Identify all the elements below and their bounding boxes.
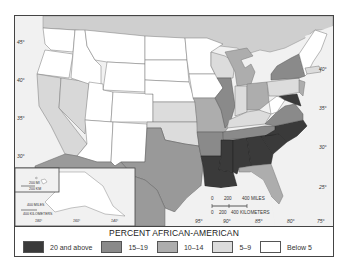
legend-item-below-5: Below 5 (260, 241, 312, 253)
scale-miles-400: 400 MILES (242, 196, 265, 201)
state-indiana (235, 86, 247, 116)
scale-miles-200: 200 (224, 196, 232, 201)
legend-item-20-and-above: 20 and above (23, 241, 92, 253)
latitude-tick: 45° (17, 39, 25, 45)
legend-swatch (212, 241, 233, 253)
map-svg (15, 16, 333, 226)
state-oregon (37, 50, 73, 78)
legend-swatch (157, 241, 178, 253)
state-colorado (111, 92, 153, 122)
legend-label: 5–9 (239, 244, 251, 251)
state-ohio (247, 82, 269, 110)
state-kansas (153, 102, 197, 122)
state-washington (43, 28, 75, 52)
us-choropleth-map: 45° 40° 35° 30° 40° 35° 30° 25° 95° 90° … (15, 16, 333, 227)
scale-km-400: 400 KILOMETERS (231, 210, 270, 215)
longitude-tick: 75° (317, 218, 325, 224)
legend-swatch (260, 241, 281, 253)
alaska-longitude-tick: 180° (35, 219, 42, 223)
alaska-scale-km: 400 KILOMETERS (23, 212, 52, 216)
hawaii-scale-km: 200 KM (29, 187, 41, 191)
latitude-tick: 30° (17, 153, 25, 159)
legend-label: 10–14 (184, 244, 203, 251)
alaska-longitude-tick: 140° (111, 219, 118, 223)
legend-label: 15–19 (128, 244, 147, 251)
map-figure: 45° 40° 35° 30° 40° 35° 30° 25° 95° 90° … (14, 15, 334, 257)
legend-item-10-14: 10–14 (157, 241, 203, 253)
hawaii-scale-miles: 200 MI (29, 181, 40, 185)
scale-miles-0: 0 (211, 196, 214, 201)
state-pennsylvania (267, 78, 301, 96)
state-new-mexico (111, 122, 147, 166)
state-south-dakota (145, 60, 189, 82)
latitude-tick: 40° (319, 66, 327, 72)
legend-items: 20 and above 15–19 10–14 5–9 Below 5 (23, 241, 321, 253)
latitude-tick: 35° (319, 105, 327, 111)
legend-label: 20 and above (50, 244, 92, 251)
scale-km-0: 0 (211, 210, 214, 215)
latitude-tick: 25° (319, 184, 327, 190)
state-wyoming (103, 62, 145, 92)
alaska-scale-miles: 400 MILES (27, 203, 44, 207)
state-north-dakota (145, 36, 187, 60)
state-kentucky (227, 110, 271, 128)
legend-swatch (23, 241, 44, 253)
legend-label: Below 5 (287, 244, 312, 251)
map-legend: PERCENT AFRICAN-AMERICAN 20 and above 15… (15, 227, 333, 256)
latitude-tick: 40° (17, 77, 25, 83)
longitude-tick: 95° (195, 218, 203, 224)
state-mississippi (219, 140, 233, 172)
alaska-longitude-tick: 160° (73, 219, 80, 223)
longitude-tick: 90° (223, 218, 231, 224)
legend-title: PERCENT AFRICAN-AMERICAN (15, 228, 333, 238)
latitude-tick: 30° (319, 144, 327, 150)
state-arkansas (197, 132, 223, 156)
scale-km-200: 200 (219, 210, 227, 215)
legend-item-5-9: 5–9 (212, 241, 251, 253)
longitude-tick: 80° (287, 218, 295, 224)
longitude-tick: 85° (255, 218, 263, 224)
legend-item-15-19: 15–19 (101, 241, 147, 253)
legend-swatch (101, 241, 122, 253)
latitude-tick: 35° (17, 115, 25, 121)
